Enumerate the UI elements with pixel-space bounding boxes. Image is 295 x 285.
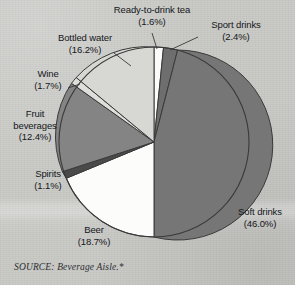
label-bottled-water-name: Bottled water: [58, 32, 112, 43]
source-note: SOURCE: Beverage Aisle.*: [14, 262, 124, 272]
label-fruit-beverages-name-line1: Fruit: [26, 108, 45, 119]
label-beer-name: Beer: [84, 224, 104, 235]
label-soft-drinks-name: Soft drinks: [238, 206, 282, 217]
label-wine-name: Wine: [37, 68, 58, 79]
label-bottled-water-pct: (16.2%): [41, 44, 129, 56]
label-sport-drinks: Sport drinks (2.4%): [196, 19, 276, 42]
pie-chart-figure: Ready-to-drink tea (1.6%) Sport drinks (…: [0, 0, 295, 285]
label-fruit-beverages-name-line2: beverages: [2, 120, 68, 132]
label-ready-to-drink-tea: Ready-to-drink tea (1.6%): [96, 4, 208, 27]
label-fruit-beverages-pct: (12.4%): [2, 131, 68, 143]
label-beer: Beer (18.7%): [62, 224, 126, 247]
label-wine: Wine (1.7%): [22, 68, 74, 91]
label-bottled-water: Bottled water (16.2%): [41, 32, 129, 55]
label-soft-drinks-pct: (46.0%): [226, 218, 294, 230]
label-ready-to-drink-tea-name: Ready-to-drink tea: [114, 4, 190, 15]
label-spirits-pct: (1.1%): [18, 180, 78, 192]
leader-line-sport-drinks: [170, 37, 198, 50]
label-beer-pct: (18.7%): [62, 236, 126, 248]
label-sport-drinks-name: Sport drinks: [211, 19, 261, 30]
label-wine-pct: (1.7%): [22, 80, 74, 92]
label-soft-drinks: Soft drinks (46.0%): [226, 206, 294, 229]
label-spirits: Spirits (1.1%): [18, 168, 78, 191]
label-fruit-beverages: Fruit beverages (12.4%): [2, 108, 68, 143]
label-spirits-name: Spirits: [35, 168, 61, 179]
label-ready-to-drink-tea-pct: (1.6%): [96, 16, 208, 28]
label-sport-drinks-pct: (2.4%): [196, 31, 276, 43]
